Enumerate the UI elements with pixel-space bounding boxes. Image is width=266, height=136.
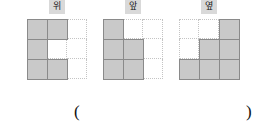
view-label-side: 옆	[201, 0, 217, 14]
grid-cell-filled	[123, 59, 144, 80]
grid-cell-filled	[219, 19, 240, 40]
grid-cell-filled	[27, 59, 48, 80]
answer-open-paren: (	[74, 102, 80, 122]
grid-cell-empty	[179, 39, 199, 59]
grid-cell-empty	[143, 39, 163, 59]
grid-top	[27, 19, 87, 79]
grid-cell-filled	[103, 19, 124, 40]
grid-cell-filled	[27, 19, 48, 40]
grid-cell-empty	[67, 59, 87, 79]
view-label-top: 위	[49, 0, 65, 14]
view-side: 옆	[179, 0, 239, 79]
grid-cell-filled	[27, 39, 48, 60]
grid-cell-empty	[67, 39, 87, 59]
figure-root: 위 앞 옆 ( )	[0, 0, 266, 136]
grid-cell-empty	[123, 19, 143, 39]
answer-close-paren: )	[246, 102, 252, 122]
grid-cell-filled	[199, 59, 220, 80]
view-top: 위	[27, 0, 87, 79]
answer-blank[interactable]	[86, 104, 242, 122]
grid-cell-filled	[199, 39, 220, 60]
grid-cell-filled	[219, 39, 240, 60]
view-front: 앞	[103, 0, 163, 79]
grid-cell-empty	[67, 19, 87, 39]
grid-cell-filled	[103, 39, 124, 60]
grid-cell-empty	[199, 19, 219, 39]
grid-cell-empty	[47, 39, 67, 59]
grid-cell-filled	[47, 19, 68, 40]
grid-side	[179, 19, 239, 79]
orthographic-views-row: 위 앞 옆	[0, 0, 266, 96]
grid-cell-filled	[219, 59, 240, 80]
grid-front	[103, 19, 163, 79]
grid-cell-filled	[47, 59, 68, 80]
grid-cell-filled	[179, 59, 200, 80]
grid-cell-empty	[179, 19, 199, 39]
grid-cell-empty	[143, 59, 163, 79]
grid-cell-empty	[143, 19, 163, 39]
view-label-front: 앞	[125, 0, 141, 14]
grid-cell-filled	[123, 39, 144, 60]
answer-row: ( )	[0, 96, 266, 136]
grid-cell-filled	[103, 59, 124, 80]
